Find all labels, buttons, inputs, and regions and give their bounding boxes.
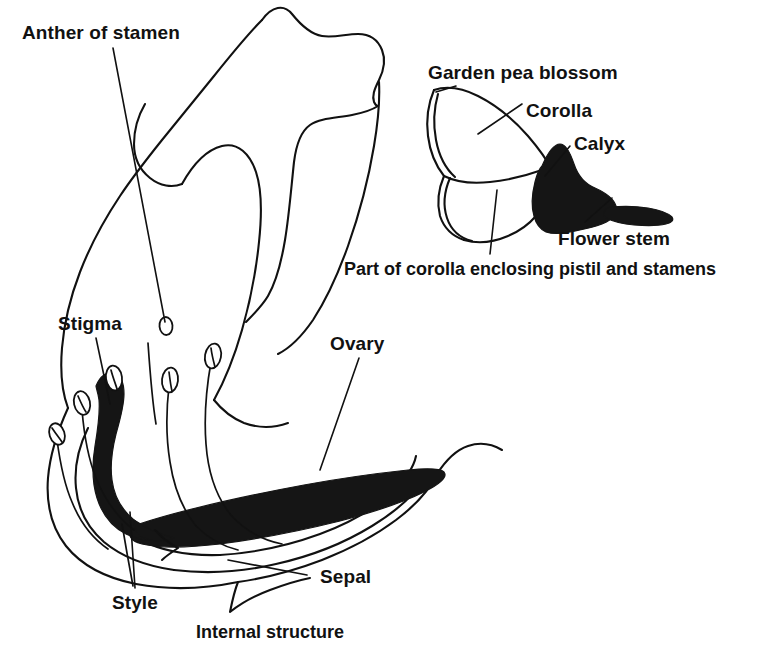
label-calyx: Calyx xyxy=(574,133,626,154)
leader-ovary xyxy=(320,358,359,470)
diagram-canvas: Anther of stamen Stigma Ovary Style Sepa… xyxy=(0,0,768,659)
leader-part-of-corolla xyxy=(490,190,497,254)
pea-blossom-diagram: Anther of stamen Stigma Ovary Style Sepa… xyxy=(0,0,768,659)
label-corolla: Corolla xyxy=(526,100,592,121)
label-ovary: Ovary xyxy=(330,333,385,354)
leader-anther-of-stamen xyxy=(113,48,165,322)
label-garden-pea-blossom: Garden pea blossom xyxy=(428,62,618,83)
label-anther-of-stamen: Anther of stamen xyxy=(22,22,180,43)
caption-internal-structure: Internal structure xyxy=(196,622,344,642)
label-sepal: Sepal xyxy=(320,566,371,587)
label-stigma: Stigma xyxy=(58,313,122,334)
anther-group xyxy=(46,316,223,446)
leader-sepal xyxy=(228,560,307,575)
caption-part-of-corolla: Part of corolla enclosing pistil and sta… xyxy=(344,259,716,279)
label-flower-stem: Flower stem xyxy=(558,228,670,249)
label-style: Style xyxy=(112,592,158,613)
style-and-stigma xyxy=(93,373,174,541)
anther-icon-upper xyxy=(159,316,174,335)
